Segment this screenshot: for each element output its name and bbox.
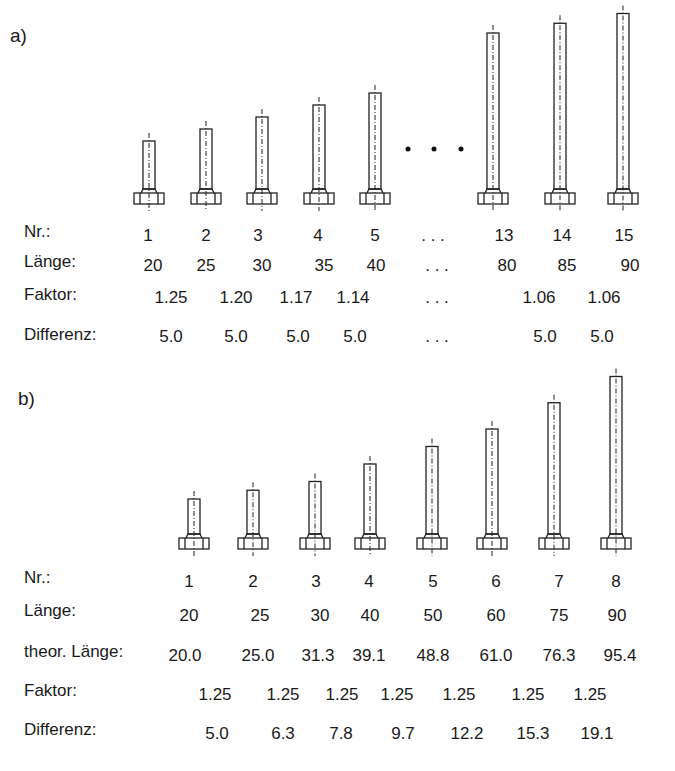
laenge-cell: 20 bbox=[180, 606, 199, 626]
bolt bbox=[238, 482, 268, 556]
laenge-cell: 30 bbox=[311, 606, 330, 626]
theor-laenge-cell: 20.0 bbox=[168, 646, 201, 666]
faktor-cell: 1.25 bbox=[573, 685, 606, 705]
theor-laenge-cell: 95.4 bbox=[603, 646, 636, 666]
panel-b-bolts bbox=[0, 0, 675, 560]
faktor-cell: 1.25 bbox=[380, 685, 413, 705]
bolt bbox=[179, 491, 209, 556]
bolt bbox=[417, 439, 447, 557]
faktor-cell: 1.25 bbox=[198, 685, 231, 705]
faktor-cell: 1.25 bbox=[266, 685, 299, 705]
row-label-laenge: Länge: bbox=[24, 601, 76, 621]
faktor-cell: 1.25 bbox=[325, 685, 358, 705]
nr-cell: 3 bbox=[311, 572, 320, 592]
row-label-faktor: Faktor: bbox=[24, 681, 77, 701]
theor-laenge-cell: 48.8 bbox=[416, 646, 449, 666]
differenz-cell: 6.3 bbox=[271, 724, 295, 744]
nr-cell: 7 bbox=[554, 572, 563, 592]
differenz-cell: 12.2 bbox=[450, 724, 483, 744]
row-label-differenz: Differenz: bbox=[24, 720, 96, 740]
faktor-cell: 1.25 bbox=[511, 685, 544, 705]
nr-cell: 6 bbox=[491, 572, 500, 592]
bolt bbox=[477, 421, 507, 556]
differenz-cell: 9.7 bbox=[391, 724, 415, 744]
nr-cell: 2 bbox=[248, 572, 257, 592]
theor-laenge-cell: 31.3 bbox=[301, 646, 334, 666]
row-label-nr: Nr.: bbox=[24, 568, 50, 588]
differenz-cell: 19.1 bbox=[580, 724, 613, 744]
laenge-cell: 75 bbox=[550, 606, 569, 626]
laenge-cell: 40 bbox=[361, 606, 380, 626]
row-label-theor-laenge: theor. Länge: bbox=[24, 642, 123, 662]
laenge-cell: 25 bbox=[251, 606, 270, 626]
faktor-cell: 1.25 bbox=[442, 685, 475, 705]
nr-cell: 1 bbox=[184, 572, 193, 592]
bolt bbox=[539, 395, 569, 556]
laenge-cell: 60 bbox=[487, 606, 506, 626]
laenge-cell: 90 bbox=[608, 606, 627, 626]
differenz-cell: 15.3 bbox=[516, 724, 549, 744]
theor-laenge-cell: 25.0 bbox=[241, 646, 274, 666]
nr-cell: 8 bbox=[611, 572, 620, 592]
laenge-cell: 50 bbox=[424, 606, 443, 626]
differenz-cell: 5.0 bbox=[205, 724, 229, 744]
nr-cell: 4 bbox=[364, 572, 373, 592]
theor-laenge-cell: 39.1 bbox=[352, 646, 385, 666]
bolt bbox=[601, 369, 631, 557]
differenz-cell: 7.8 bbox=[329, 724, 353, 744]
bolt bbox=[300, 474, 330, 557]
theor-laenge-cell: 76.3 bbox=[542, 646, 575, 666]
bolt bbox=[355, 456, 385, 556]
nr-cell: 5 bbox=[428, 572, 437, 592]
theor-laenge-cell: 61.0 bbox=[479, 646, 512, 666]
